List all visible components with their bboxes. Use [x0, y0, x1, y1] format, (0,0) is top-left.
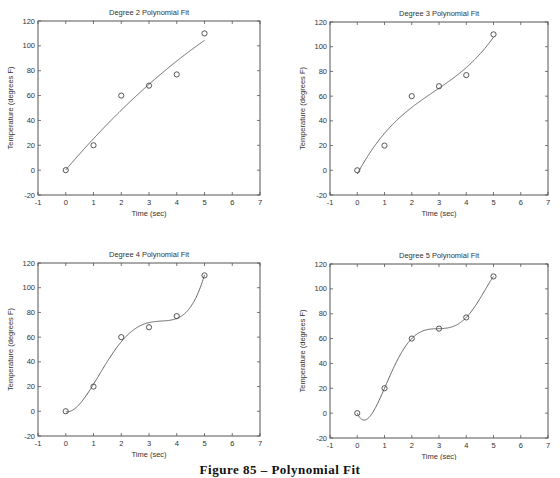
y-tick-label: 40	[27, 116, 35, 125]
axes-box	[38, 263, 260, 436]
x-tick-label: 1	[382, 441, 386, 450]
x-tick-label: 1	[382, 198, 386, 207]
x-tick-label: 0	[355, 441, 359, 450]
subplot-degree-3: Degree 3 Polynomial Fit-101234567-200204…	[280, 0, 560, 230]
y-tick-label: 120	[22, 259, 35, 268]
data-point-marker	[464, 73, 469, 78]
x-tick-label: -1	[327, 441, 334, 450]
data-point-marker	[202, 31, 207, 36]
x-tick-label: 6	[519, 441, 523, 450]
y-tick-label: -20	[316, 191, 327, 200]
y-tick-label: 80	[27, 66, 35, 75]
fit-curve	[66, 40, 205, 169]
subplot-degree-5: Degree 5 Polynomial Fit-101234567-200204…	[280, 230, 560, 460]
chart-degree-2: Degree 2 Polynomial Fit-101234567-200204…	[0, 0, 280, 230]
x-tick-label: 3	[147, 198, 151, 207]
x-tick-label: 4	[464, 441, 468, 450]
x-tick-label: 6	[230, 198, 234, 207]
fit-curve	[357, 276, 493, 420]
y-tick-label: 60	[319, 334, 327, 343]
y-tick-label: 20	[27, 382, 35, 391]
chart-degree-4: Degree 4 Polynomial Fit-101234567-200204…	[0, 230, 280, 460]
y-tick-label: 80	[319, 309, 327, 318]
data-point-marker	[409, 94, 414, 99]
x-tick-label: 7	[546, 441, 550, 450]
x-tick-label: 3	[437, 441, 441, 450]
figure-caption: Figure 85 – Polynomial Fit	[0, 462, 560, 478]
subplot-degree-4: Degree 4 Polynomial Fit-101234567-200204…	[0, 230, 280, 460]
x-tick-label: 2	[119, 198, 123, 207]
x-tick-label: 2	[410, 198, 414, 207]
x-tick-label: 2	[119, 439, 123, 448]
chart-title: Degree 2 Polynomial Fit	[109, 8, 190, 17]
fit-curve	[357, 37, 493, 174]
y-tick-label: 120	[314, 18, 327, 27]
x-tick-label: 7	[258, 439, 262, 448]
subplot-degree-2: Degree 2 Polynomial Fit-101234567-200204…	[0, 0, 280, 230]
y-tick-label: 40	[319, 359, 327, 368]
data-point-marker	[491, 32, 496, 37]
fit-curve	[66, 275, 205, 412]
y-tick-label: 100	[22, 283, 35, 292]
y-axis-label: Temperature (degrees F)	[298, 67, 307, 150]
y-tick-label: 100	[314, 284, 327, 293]
y-axis-label: Temperature (degrees F)	[6, 308, 15, 391]
x-tick-label: 7	[546, 198, 550, 207]
chart-title: Degree 3 Polynomial Fit	[399, 9, 480, 18]
x-tick-label: 3	[147, 439, 151, 448]
y-tick-label: 60	[27, 333, 35, 342]
x-tick-label: 2	[410, 441, 414, 450]
x-tick-label: 3	[437, 198, 441, 207]
x-axis-label: Time (sec)	[421, 452, 457, 460]
y-tick-label: 120	[314, 260, 327, 269]
chart-title: Degree 5 Polynomial Fit	[399, 251, 480, 260]
axes-box	[330, 264, 548, 438]
x-tick-label: -1	[35, 198, 42, 207]
y-tick-label: 20	[27, 141, 35, 150]
x-tick-label: 4	[175, 198, 179, 207]
y-tick-label: 100	[314, 42, 327, 51]
y-tick-label: 20	[319, 384, 327, 393]
x-tick-label: -1	[327, 198, 334, 207]
chart-title: Degree 4 Polynomial Fit	[109, 250, 190, 259]
x-tick-label: 5	[491, 198, 495, 207]
y-axis-label: Temperature (degrees F)	[298, 309, 307, 392]
x-tick-label: 5	[202, 439, 206, 448]
data-point-marker	[63, 168, 68, 173]
data-point-marker	[119, 93, 124, 98]
y-tick-label: -20	[24, 191, 35, 200]
x-axis-label: Time (sec)	[131, 209, 167, 218]
y-tick-label: 120	[22, 17, 35, 26]
x-tick-label: 5	[202, 198, 206, 207]
y-tick-label: 40	[27, 357, 35, 366]
x-tick-label: 0	[355, 198, 359, 207]
data-point-marker	[174, 72, 179, 77]
data-point-marker	[63, 409, 68, 414]
axes-box	[330, 22, 548, 195]
x-tick-label: 7	[258, 198, 262, 207]
x-tick-label: 6	[230, 439, 234, 448]
x-tick-label: 4	[175, 439, 179, 448]
axes-box	[38, 21, 260, 195]
x-tick-label: -1	[35, 439, 42, 448]
y-tick-label: 100	[22, 41, 35, 50]
y-tick-label: -20	[24, 432, 35, 441]
x-tick-label: 0	[64, 198, 68, 207]
x-tick-label: 0	[64, 439, 68, 448]
y-tick-label: 0	[323, 409, 327, 418]
y-tick-label: 80	[319, 67, 327, 76]
x-tick-label: 1	[91, 439, 95, 448]
data-point-marker	[382, 143, 387, 148]
x-tick-label: 4	[464, 198, 468, 207]
y-tick-label: -20	[316, 434, 327, 443]
data-point-marker	[91, 143, 96, 148]
y-axis-label: Temperature (degrees F)	[6, 66, 15, 149]
chart-degree-3: Degree 3 Polynomial Fit-101234567-200204…	[280, 0, 560, 230]
y-tick-label: 0	[323, 166, 327, 175]
y-tick-label: 20	[319, 141, 327, 150]
y-tick-label: 0	[31, 166, 35, 175]
x-axis-label: Time (sec)	[421, 209, 457, 218]
y-tick-label: 0	[31, 407, 35, 416]
y-tick-label: 80	[27, 308, 35, 317]
y-tick-label: 40	[319, 116, 327, 125]
